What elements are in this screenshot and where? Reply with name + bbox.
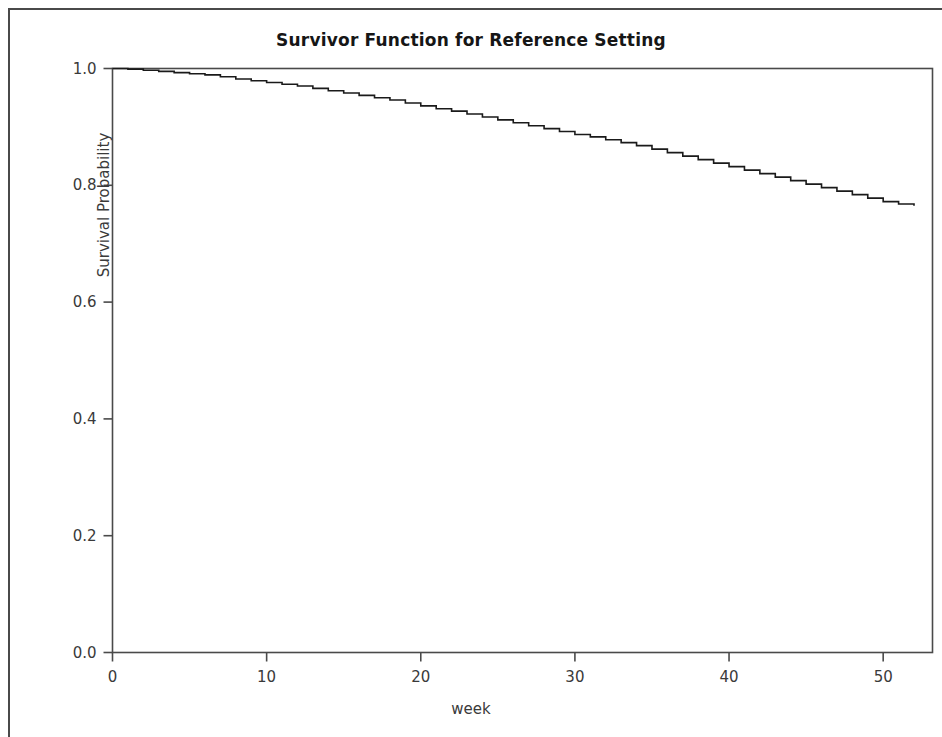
x-tick-label: 30 — [565, 668, 584, 686]
y-tick-label: 0.4 — [73, 410, 97, 428]
plot-frame — [113, 69, 933, 653]
x-tick-label: 40 — [719, 668, 738, 686]
figure-canvas: Survivor Function for Reference Setting … — [0, 0, 942, 737]
x-tick-label: 50 — [874, 668, 893, 686]
x-axis-ticks: 01020304050 — [108, 653, 893, 686]
x-tick-label: 0 — [108, 668, 118, 686]
x-tick-label: 20 — [411, 668, 430, 686]
y-axis-label: Survival Probability — [95, 25, 113, 385]
x-axis-label: week — [0, 700, 942, 718]
y-tick-label: 0.8 — [73, 176, 97, 194]
plot-area: 0.00.20.40.60.81.0 01020304050 — [0, 0, 942, 737]
y-tick-label: 0.0 — [73, 644, 97, 662]
y-tick-label: 0.2 — [73, 527, 97, 545]
y-axis-label-container: Survival Probability — [95, 25, 125, 385]
y-tick-label: 0.6 — [73, 293, 97, 311]
x-tick-label: 10 — [257, 668, 276, 686]
y-tick-label: 1.0 — [73, 60, 97, 78]
